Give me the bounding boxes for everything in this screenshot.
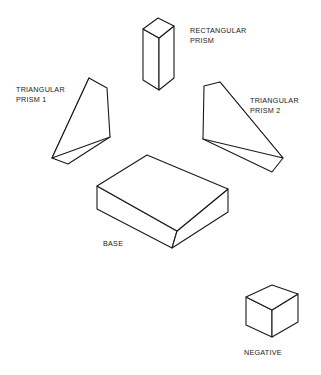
shape-rectangular-prism[interactable] (143, 18, 174, 90)
rect-prism-left-face (143, 29, 159, 90)
label-triangular-prism-2: TRIANGULAR PRISM 2 (250, 96, 299, 115)
label-negative: NEGATIVE (244, 348, 282, 358)
shape-negative-cube[interactable] (246, 285, 298, 337)
label-rectangular-prism: RECTANGULAR PRISM (190, 26, 247, 45)
assembly-diagram-canvas (0, 0, 321, 375)
shape-base[interactable] (97, 155, 228, 248)
tri2-top-face (203, 82, 283, 158)
label-triangular-prism-1: TRIANGULAR PRISM 1 (16, 85, 65, 104)
label-base: BASE (103, 239, 123, 249)
